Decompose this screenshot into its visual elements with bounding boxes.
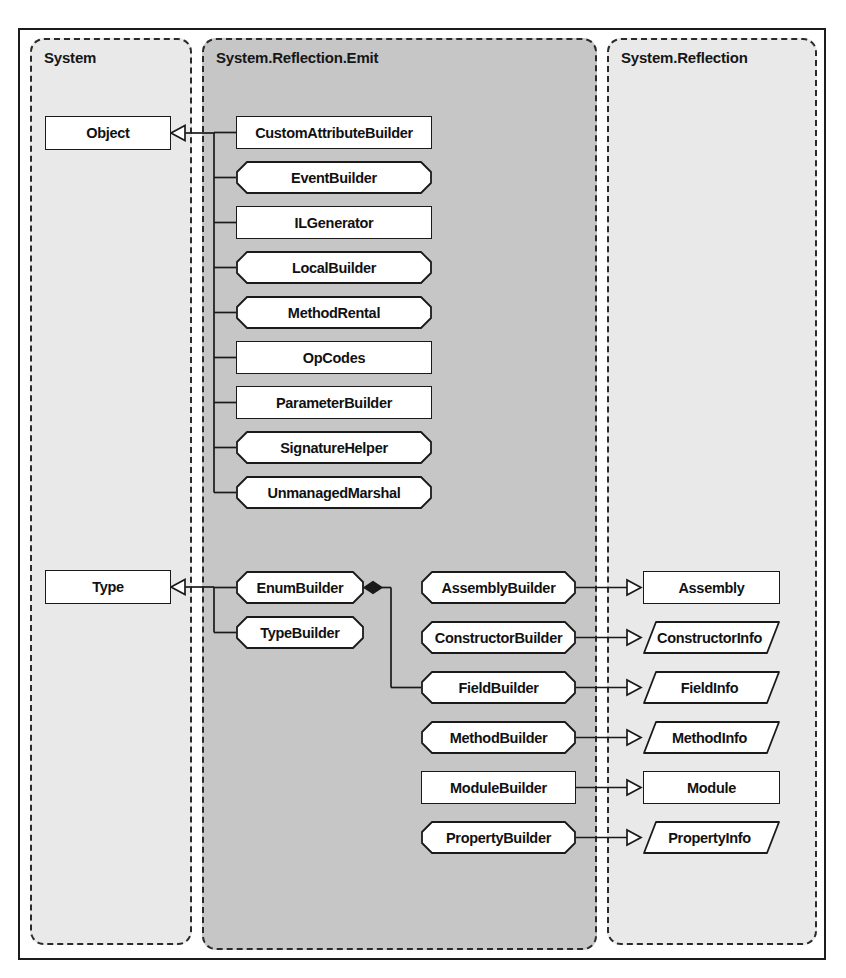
class-node-property-info[interactable]: PropertyInfo: [643, 821, 780, 854]
class-node-op-codes[interactable]: OpCodes: [236, 341, 432, 374]
node-outline: [643, 821, 780, 854]
class-name-label: ILGenerator: [295, 215, 374, 231]
node-outline: [421, 671, 576, 704]
class-node-constructor-builder[interactable]: ConstructorBuilder: [421, 621, 576, 654]
package-label: System: [44, 49, 96, 66]
node-outline: [236, 296, 432, 329]
uml-package-diagram: SystemSystem.Reflection.EmitSystem.Refle…: [0, 0, 846, 978]
node-outline: [421, 621, 576, 654]
class-node-enum-builder[interactable]: EnumBuilder: [236, 571, 364, 604]
class-node-unmanaged-marshal[interactable]: UnmanagedMarshal: [236, 476, 432, 509]
node-outline: [236, 251, 432, 284]
class-node-object[interactable]: Object: [45, 116, 171, 150]
class-node-method-rental[interactable]: MethodRental: [236, 296, 432, 329]
class-node-field-info[interactable]: FieldInfo: [643, 671, 780, 704]
class-name-label: Module: [687, 780, 736, 796]
node-outline: [421, 571, 576, 604]
node-outline: [236, 431, 432, 464]
class-name-label: ModuleBuilder: [450, 780, 547, 796]
class-node-constructor-info[interactable]: ConstructorInfo: [643, 621, 780, 654]
class-node-type[interactable]: Type: [45, 570, 171, 604]
class-name-label: Assembly: [678, 580, 744, 596]
class-node-assembly-builder[interactable]: AssemblyBuilder: [421, 571, 576, 604]
class-node-parameter-builder[interactable]: ParameterBuilder: [236, 386, 432, 419]
node-outline: [643, 671, 780, 704]
node-outline: [236, 571, 364, 604]
class-node-il-generator[interactable]: ILGenerator: [236, 206, 432, 239]
class-name-label: OpCodes: [303, 350, 365, 366]
class-node-assembly[interactable]: Assembly: [643, 571, 780, 604]
package-system-reflection: System.Reflection: [607, 38, 817, 945]
node-outline: [236, 616, 364, 649]
node-outline: [236, 161, 432, 194]
class-name-label: Type: [92, 579, 124, 595]
package-label: System.Reflection.Emit: [216, 49, 378, 66]
package-system: System: [30, 38, 192, 945]
class-node-module-builder[interactable]: ModuleBuilder: [421, 771, 576, 804]
class-name-label: Object: [86, 125, 129, 141]
node-outline: [421, 821, 576, 854]
class-node-module[interactable]: Module: [643, 771, 780, 804]
class-node-property-builder[interactable]: PropertyBuilder: [421, 821, 576, 854]
node-outline: [421, 721, 576, 754]
node-outline: [643, 621, 780, 654]
class-node-signature-helper[interactable]: SignatureHelper: [236, 431, 432, 464]
class-node-type-builder[interactable]: TypeBuilder: [236, 616, 364, 649]
node-outline: [643, 721, 780, 754]
class-node-custom-attribute-builder[interactable]: CustomAttributeBuilder: [236, 116, 432, 149]
node-outline: [236, 476, 432, 509]
class-node-method-builder[interactable]: MethodBuilder: [421, 721, 576, 754]
class-node-method-info[interactable]: MethodInfo: [643, 721, 780, 754]
class-node-field-builder[interactable]: FieldBuilder: [421, 671, 576, 704]
class-name-label: CustomAttributeBuilder: [255, 125, 413, 141]
package-label: System.Reflection: [621, 49, 748, 66]
class-name-label: ParameterBuilder: [276, 395, 392, 411]
class-node-event-builder[interactable]: EventBuilder: [236, 161, 432, 194]
class-node-local-builder[interactable]: LocalBuilder: [236, 251, 432, 284]
